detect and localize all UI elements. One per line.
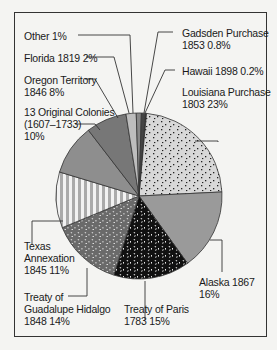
label-other: Other 1% (24, 30, 67, 42)
label-gadsden-line2: 1853 0.8% (182, 39, 269, 51)
label-guadalupe-line3: 1848 14% (24, 315, 111, 327)
label-alaska: Alaska 1867 16% (199, 276, 255, 300)
label-colonies-line1: 13 Original Colonies (24, 106, 115, 118)
label-louisiana-line2: 1803 23% (182, 98, 271, 110)
label-texas-line1: Texas (24, 240, 75, 252)
label-guadalupe-line1: Treaty of (24, 291, 111, 303)
label-colonies-line3: 10% (24, 130, 115, 142)
label-gadsden: Gadsden Purchase 1853 0.8% (182, 27, 269, 51)
label-texas-line3: 1845 11% (24, 264, 75, 276)
label-florida: Florida 1819 2% (24, 52, 97, 64)
label-louisiana-line1: Louisiana Purchase (182, 86, 271, 98)
label-hawaii: Hawaii 1898 0.2% (182, 65, 263, 77)
label-paris-line1: Treaty of Paris (124, 303, 189, 315)
label-paris: Treaty of Paris 1783 15% (124, 303, 189, 327)
label-texas-line2: Annexation (24, 252, 75, 264)
label-oregon-line2: 1846 8% (24, 86, 96, 98)
label-florida-text: Florida 1819 2% (24, 52, 97, 64)
label-alaska-line1: Alaska 1867 (199, 276, 255, 288)
label-other-text: Other 1% (24, 30, 67, 42)
label-gadsden-line1: Gadsden Purchase (182, 27, 269, 39)
label-hawaii-text: Hawaii 1898 0.2% (182, 65, 263, 77)
label-alaska-line2: 16% (199, 288, 255, 300)
label-colonies: 13 Original Colonies (1607–1733) 10% (24, 106, 115, 142)
label-oregon: Oregon Territory 1846 8% (24, 74, 96, 98)
label-oregon-line1: Oregon Territory (24, 74, 96, 86)
label-colonies-line2: (1607–1733) (24, 118, 115, 130)
label-texas: Texas Annexation 1845 11% (24, 240, 75, 276)
label-guadalupe: Treaty of Guadalupe Hidalgo 1848 14% (24, 291, 111, 327)
pie-slice-louisiana-purchase (139, 113, 222, 196)
label-paris-line2: 1783 15% (124, 315, 189, 327)
label-guadalupe-line2: Guadalupe Hidalgo (24, 303, 111, 315)
label-louisiana: Louisiana Purchase 1803 23% (182, 86, 271, 110)
